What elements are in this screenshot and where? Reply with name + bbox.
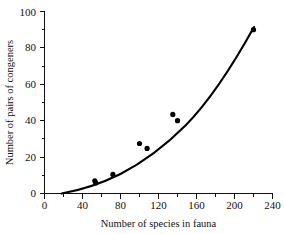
y-tick-label: 80	[25, 41, 37, 53]
x-tick-label: 80	[115, 199, 127, 211]
x-tick-label: 200	[226, 199, 243, 211]
y-tick-label: 0	[31, 187, 37, 199]
data-point	[110, 172, 115, 177]
x-tick-label: 0	[42, 199, 48, 211]
data-point	[93, 180, 98, 185]
y-tick-label: 20	[25, 151, 37, 163]
x-tick-label: 120	[150, 199, 167, 211]
x-tick-label: 40	[77, 199, 89, 211]
x-tick-label: 160	[188, 199, 205, 211]
data-point	[175, 118, 180, 123]
y-tick-label: 100	[20, 6, 37, 18]
x-tick-label: 240	[264, 199, 281, 211]
y-tick-label: 40	[25, 114, 37, 126]
y-tick-label: 60	[25, 78, 37, 90]
x-axis-title: Number of species in fauna	[101, 218, 217, 229]
data-point	[251, 27, 256, 32]
chart-canvas: 0 20 40 60 80 100 0 40 80 120 160 200 24…	[0, 0, 284, 234]
data-point	[170, 112, 175, 117]
scatter-plot-figure: 0 20 40 60 80 100 0 40 80 120 160 200 24…	[0, 0, 284, 234]
y-axis-title: Number of pairs of congeners	[4, 40, 15, 165]
data-point	[137, 141, 142, 146]
data-point	[145, 146, 150, 151]
